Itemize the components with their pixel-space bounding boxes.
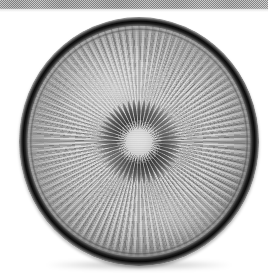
page-canvas: Radially ribbed pressed glass plate xyxy=(0,0,275,273)
plate-drop-shadow xyxy=(45,260,232,270)
pressed-glass-plate xyxy=(19,17,259,266)
halftone-band-fade xyxy=(0,8,268,12)
plate-outer-rim xyxy=(19,17,259,266)
